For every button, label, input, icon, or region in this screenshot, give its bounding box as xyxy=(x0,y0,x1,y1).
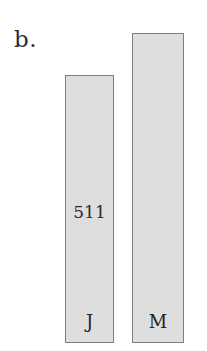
panel-label: b. xyxy=(14,26,37,52)
bar-m-category-label: M xyxy=(133,312,183,331)
bar-m: M xyxy=(132,33,184,343)
bar-j-category-label: J xyxy=(66,312,113,331)
bar-j: 511 J xyxy=(65,75,114,343)
bar-chart-figure: b. 511 J M xyxy=(0,0,207,351)
bar-j-value-label: 511 xyxy=(66,203,113,221)
